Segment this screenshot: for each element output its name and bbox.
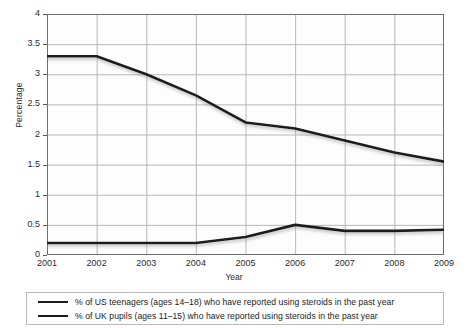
x-tick-label: 2004 — [173, 259, 219, 268]
x-tick-label: 2009 — [421, 259, 467, 268]
y-tick-label: 2.5 — [8, 99, 40, 108]
x-tick-label: 2005 — [223, 259, 269, 268]
series-line-us — [47, 56, 444, 161]
legend-item-us: % of US teenagers (ages 14–18) who have … — [38, 295, 394, 309]
x-tick-label: 2008 — [371, 259, 417, 268]
x-axis-title: Year — [0, 272, 468, 282]
legend-line-swatch-us — [38, 301, 68, 304]
x-tick-label: 2006 — [272, 259, 318, 268]
y-tick-label: 1 — [8, 190, 40, 199]
x-tick-label: 2001 — [24, 259, 70, 268]
y-tick-label: 0.5 — [8, 220, 40, 229]
plot-border — [48, 15, 444, 255]
y-tick-label: 0 — [8, 250, 40, 259]
legend-label-us: % of US teenagers (ages 14–18) who have … — [75, 297, 394, 307]
vertical-gridlines — [97, 14, 395, 255]
legend-line-swatch-uk — [38, 315, 68, 318]
plot-area — [47, 14, 444, 255]
y-tick-label: 2 — [8, 130, 40, 139]
line-chart: Percentage 00.511.522.533.54 20012002200… — [0, 0, 468, 328]
x-tick-label: 2002 — [74, 259, 120, 268]
series-line-uk — [47, 225, 444, 243]
x-tick-label: 2003 — [123, 259, 169, 268]
y-tick-mark — [43, 255, 47, 256]
legend-item-uk: % of UK pupils (ages 11–15) who have rep… — [38, 309, 378, 323]
y-tick-label: 4 — [8, 9, 40, 18]
horizontal-gridlines — [47, 45, 444, 226]
y-tick-label: 3.5 — [8, 39, 40, 48]
x-tick-label: 2007 — [322, 259, 368, 268]
y-tick-label: 1.5 — [8, 160, 40, 169]
plot-svg — [47, 14, 444, 255]
legend: % of US teenagers (ages 14–18) who have … — [26, 292, 444, 325]
y-tick-label: 3 — [8, 69, 40, 78]
data-series-lines — [47, 56, 444, 243]
legend-label-uk: % of UK pupils (ages 11–15) who have rep… — [75, 311, 378, 321]
